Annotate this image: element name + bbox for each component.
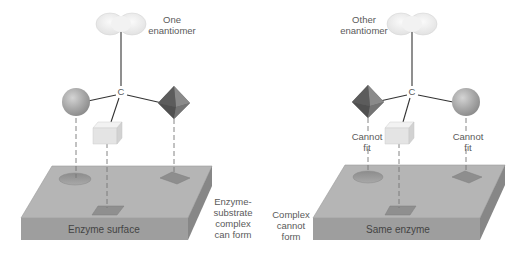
cube-group [93, 122, 122, 144]
round-binding-site [353, 171, 383, 183]
outcome-label: Complex cannot form [268, 209, 314, 242]
surface-label: Same enzyme [366, 224, 430, 235]
octahedron-group [158, 86, 190, 119]
round-binding-site [59, 173, 91, 185]
left-panel [21, 13, 212, 240]
cannot-fit-label-left: Cannot fit [347, 131, 387, 153]
outcome-label: Enzyme- substrate complex can form [208, 196, 258, 240]
enantiomer-label: Other enantiomer [336, 14, 392, 36]
sphere-group [452, 88, 480, 116]
surface-label: Enzyme surface [68, 224, 140, 235]
enantiomer-label: One enantiomer [144, 14, 200, 36]
sphere-group [62, 88, 90, 116]
cloud-group [96, 13, 146, 35]
chiral-center-label: C [116, 86, 126, 97]
cube-group [385, 122, 414, 144]
enantiomer-diagram [0, 0, 522, 258]
chiral-center-label: C [407, 86, 417, 97]
right-panel [313, 13, 505, 240]
octahedron-group [352, 85, 384, 118]
cloud-group [387, 13, 437, 35]
cannot-fit-label-right: Cannot fit [448, 131, 488, 153]
